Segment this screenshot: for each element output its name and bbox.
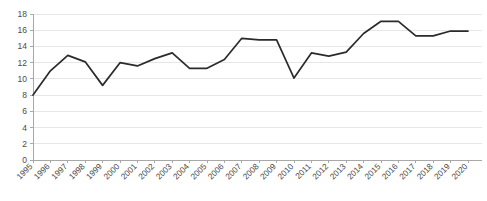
x-tick-label: 2012 xyxy=(310,161,330,181)
x-tick-label: 2000 xyxy=(101,161,121,181)
x-tick-label: 2015 xyxy=(362,161,382,181)
x-tick-label: 1995 xyxy=(14,161,34,181)
x-tick-label: 2004 xyxy=(171,161,191,181)
y-tick-label: 10 xyxy=(18,74,28,84)
y-tick-label: 16 xyxy=(18,25,28,35)
x-tick-label: 2011 xyxy=(293,161,313,181)
x-tick-label: 2002 xyxy=(136,161,156,181)
x-tick-label: 2005 xyxy=(188,161,208,181)
x-tick-label: 2007 xyxy=(223,161,243,181)
y-tick-label: 6 xyxy=(22,106,27,116)
y-tick-label: 12 xyxy=(18,58,28,68)
x-tick-label: 2014 xyxy=(345,161,365,181)
y-tick-labels: 024681012141618 xyxy=(18,9,28,165)
x-tick-label: 2013 xyxy=(327,161,347,181)
x-tick-labels: 1995199619971998199920002001200220032004… xyxy=(14,161,469,181)
y-tick-label: 14 xyxy=(18,41,28,51)
x-tick-label: 2019 xyxy=(432,161,452,181)
x-tick-label: 2003 xyxy=(153,161,173,181)
y-tick-label: 18 xyxy=(18,9,28,19)
series-line-value xyxy=(33,21,468,95)
x-tick-label: 1996 xyxy=(32,161,52,181)
x-tick-label: 1997 xyxy=(49,161,69,181)
x-tick-label: 1998 xyxy=(66,161,86,181)
x-tick-label: 1999 xyxy=(84,161,104,181)
y-tick-label: 4 xyxy=(22,123,27,133)
x-tick-label: 2016 xyxy=(380,161,400,181)
chart-canvas: 024681012141618 199519961997199819992000… xyxy=(0,0,487,201)
x-tick-label: 2008 xyxy=(240,161,260,181)
y-tick-label: 8 xyxy=(22,90,27,100)
y-tick-label: 2 xyxy=(22,139,27,149)
x-tick-label: 2010 xyxy=(275,161,295,181)
x-tick-label: 2018 xyxy=(414,161,434,181)
x-tick-label: 2006 xyxy=(206,161,226,181)
data-series xyxy=(33,21,468,95)
x-tick-label: 2020 xyxy=(449,161,469,181)
x-tick-label: 2017 xyxy=(397,161,417,181)
line-chart: 024681012141618 199519961997199819992000… xyxy=(0,0,487,201)
x-tick-label: 2009 xyxy=(258,161,278,181)
x-tick-label: 2001 xyxy=(119,161,139,181)
